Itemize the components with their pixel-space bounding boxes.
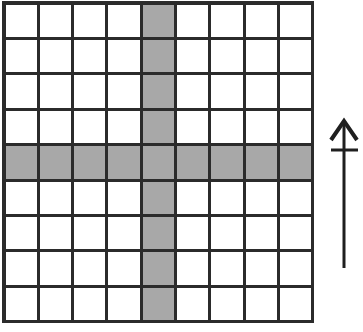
up-arrow-with-tick-icon xyxy=(0,0,363,332)
figure-root xyxy=(0,0,363,332)
